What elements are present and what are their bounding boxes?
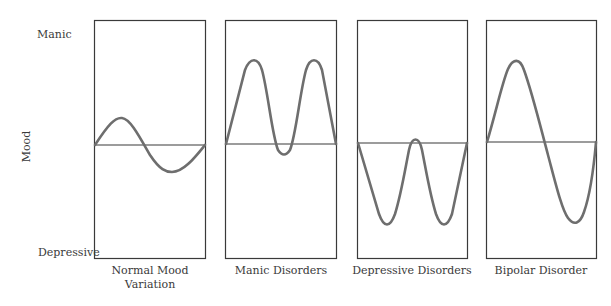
panel-frame-bipolar xyxy=(487,21,597,259)
caption-normal-line2: Variation xyxy=(94,278,206,292)
curve-manic xyxy=(226,60,336,154)
caption-normal-line1: Normal Mood xyxy=(94,264,206,278)
curve-depressive xyxy=(358,140,467,225)
caption-manic: Manic Disorders xyxy=(220,264,342,278)
panel-frame-normal xyxy=(95,21,206,259)
mood-diagram xyxy=(0,0,611,306)
caption-bipolar: Bipolar Disorder xyxy=(480,264,602,278)
panel-frame-manic xyxy=(226,21,337,259)
caption-normal: Normal Mood Variation xyxy=(94,264,206,292)
caption-depressive: Depressive Disorders xyxy=(348,264,476,278)
